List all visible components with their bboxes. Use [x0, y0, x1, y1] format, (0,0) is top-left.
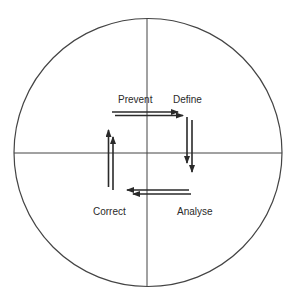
- label-prevent: Prevent: [118, 94, 153, 105]
- label-correct: Correct: [93, 206, 126, 217]
- arrow-define-to-analyse: [187, 117, 192, 172]
- label-define: Define: [173, 94, 202, 105]
- label-analyse: Analyse: [177, 206, 213, 217]
- arrow-correct-to-prevent: [109, 130, 114, 190]
- arrow-analyse-to-correct: [127, 190, 191, 194]
- cycle-diagram: Prevent Define Correct Analyse: [0, 0, 293, 302]
